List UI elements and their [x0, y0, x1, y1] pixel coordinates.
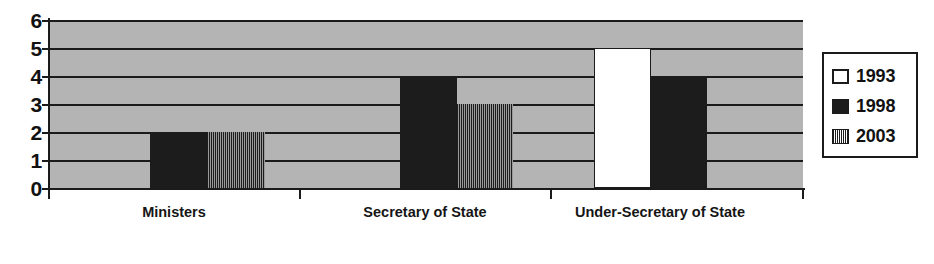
y-axis-tick-label-3: 3: [14, 94, 42, 115]
legend-label-1998: 1998: [856, 97, 895, 115]
legend-label-1993: 1993: [856, 67, 895, 85]
bar-under-secretary-of-state-1993: [594, 48, 651, 188]
x-axis-category-label-under-secretary-of-state: Under-Secretary of State: [562, 203, 758, 223]
y-axis-tick-label-4: 4: [14, 66, 42, 87]
y-axis-tick-label-6: 6: [14, 10, 42, 31]
y-axis-tick-label-0: 0: [14, 178, 42, 199]
x-axis-tick-mark-3: [802, 190, 804, 199]
y-axis-tick-label-5: 5: [14, 38, 42, 59]
y-axis-line: [48, 18, 50, 190]
legend: 1993 1998 2003: [822, 52, 918, 158]
legend-swatch-1998-icon: [832, 99, 849, 114]
bar-ministers-2003: [207, 132, 265, 188]
legend-swatch-1993-icon: [832, 69, 849, 84]
plot-area: [50, 20, 803, 188]
gridline-6: [50, 20, 803, 22]
x-axis-line: [48, 188, 805, 190]
bar-secretary-of-state-2003: [457, 104, 513, 188]
y-axis-tick-label-2: 2: [14, 122, 42, 143]
y-axis-tick-labels: 6 5 4 3 2 1 0: [14, 20, 42, 188]
legend-swatch-2003-icon: [832, 129, 849, 144]
x-axis-category-label-secretary-of-state: Secretary of State: [299, 203, 551, 223]
x-axis-tick-mark-1: [299, 190, 301, 199]
legend-item-2003: 2003: [832, 121, 916, 151]
bar-chart: 6 5 4 3 2 1 0 Ministers Se: [0, 0, 934, 264]
legend-item-1998: 1998: [832, 91, 916, 121]
bar-under-secretary-of-state-1998: [651, 76, 707, 188]
x-axis-tick-mark-0: [48, 190, 50, 199]
gridline-5: [50, 48, 803, 50]
bar-ministers-1998: [150, 132, 207, 188]
legend-label-2003: 2003: [856, 127, 895, 145]
bar-secretary-of-state-1998: [400, 76, 457, 188]
x-axis-tick-mark-2: [550, 190, 552, 199]
y-axis-tick-label-1: 1: [14, 150, 42, 171]
legend-item-1993: 1993: [832, 61, 916, 91]
x-axis-category-label-ministers: Ministers: [48, 203, 300, 223]
